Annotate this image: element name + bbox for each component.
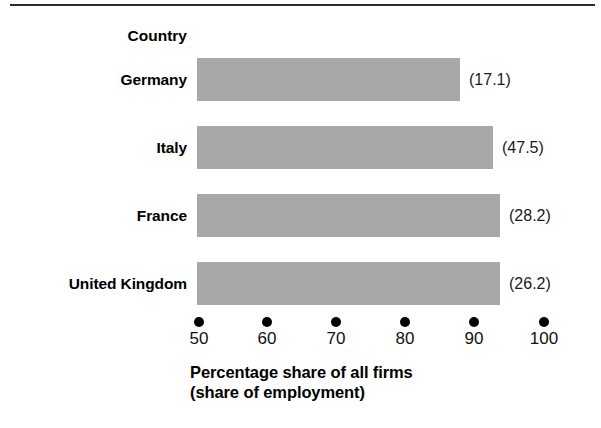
category-label-germany: Germany — [0, 72, 187, 88]
tick-label-90: 90 — [450, 330, 498, 347]
bar-france — [197, 194, 500, 237]
value-axis-title: Percentage share of all firms (share of … — [190, 362, 413, 402]
bar-value-united-kingdom: (26.2) — [509, 262, 551, 305]
tick-label-80: 80 — [381, 330, 429, 347]
tick-dot-60 — [262, 317, 272, 327]
bar-value-france: (28.2) — [509, 194, 551, 237]
bar-value-italy: (47.5) — [502, 126, 544, 169]
tick-dot-100 — [539, 317, 549, 327]
bar-value-germany: (17.1) — [469, 58, 511, 101]
category-label-france: France — [0, 208, 187, 224]
tick-dot-90 — [469, 317, 479, 327]
tick-dot-80 — [400, 317, 410, 327]
tick-label-50: 50 — [175, 330, 223, 347]
tick-dot-50 — [194, 317, 204, 327]
bar-italy — [197, 126, 493, 169]
tick-label-60: 60 — [243, 330, 291, 347]
bar-germany — [197, 58, 460, 101]
bar-united-kingdom — [197, 262, 500, 305]
top-divider-rule — [10, 4, 595, 6]
plot-area: (17.1) (47.5) (28.2) (26.2) — [197, 52, 549, 316]
tick-label-100: 100 — [520, 330, 568, 347]
category-axis-title: Country — [0, 28, 187, 44]
tick-label-70: 70 — [312, 330, 360, 347]
chart-figure: Country Germany Italy France United King… — [0, 0, 601, 428]
category-label-united-kingdom: United Kingdom — [0, 276, 187, 292]
category-label-italy: Italy — [0, 140, 187, 156]
tick-dot-70 — [331, 317, 341, 327]
